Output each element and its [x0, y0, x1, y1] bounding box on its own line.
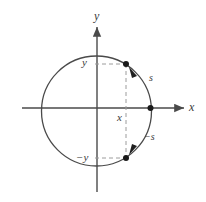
y-axis-label: y	[94, 10, 99, 22]
figure-canvas	[0, 0, 206, 202]
unit-circle-figure: x y y −y x s −s	[0, 0, 206, 202]
x-axis-label: x	[189, 101, 194, 113]
label-y-positive: y	[82, 57, 87, 68]
point-lower	[123, 155, 129, 161]
point-upper	[123, 61, 129, 67]
label-arc-s: s	[149, 73, 153, 83]
label-y-negative: −y	[76, 152, 88, 163]
label-x-coordinate: x	[117, 112, 122, 123]
point-right	[148, 105, 154, 111]
label-arc-minus-s: −s	[144, 132, 155, 142]
